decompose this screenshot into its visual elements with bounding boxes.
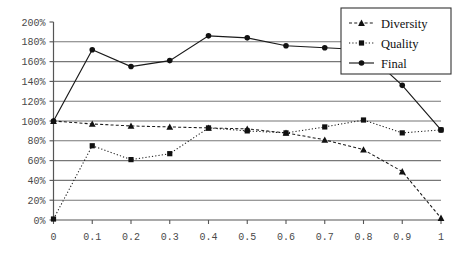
x-tick-label-1: 1 [438,232,444,243]
x-tick-label-0.8: 0.8 [354,232,372,243]
legend-marker-final [359,60,365,66]
y-tick-label-140%: 140% [21,77,45,88]
x-tick-label-0.7: 0.7 [316,232,334,243]
datapoint-final-0.1 [89,47,95,53]
datapoint-diversity-0.9 [399,168,406,174]
datapoint-quality-0.7 [322,124,327,129]
datapoint-final-0.6 [283,43,289,49]
legend-label-final: Final [381,57,407,71]
datapoint-quality-0.8 [361,117,366,122]
y-tick-label-160%: 160% [21,57,45,68]
y-tick-label-60%: 60% [27,156,45,167]
y-tick-label-200%: 200% [21,18,45,29]
datapoint-quality-0.5 [245,128,250,133]
y-tick-label-120%: 120% [21,97,45,108]
y-tick-label-80%: 80% [27,136,45,147]
x-tick-label-0: 0 [50,232,56,243]
y-tick-label-180%: 180% [21,37,45,48]
x-tick-label-0.9: 0.9 [393,232,411,243]
y-tick-label-40%: 40% [27,176,45,187]
chart-container: 0%20%40%60%80%100%120%140%160%180%200% 0… [0,0,455,258]
y-axis-tick-labels: 0%20%40%60%80%100%120%140%160%180%200% [21,18,45,227]
datapoint-quality-0.9 [400,130,405,135]
legend-label-quality: Quality [381,37,419,51]
series-line-quality [54,120,442,219]
datapoint-quality-0.6 [283,130,288,135]
datapoint-quality-0 [51,216,56,221]
datapoint-final-0.5 [244,35,250,41]
datapoint-final-0.4 [206,33,212,39]
series-line-diversity [54,121,442,218]
x-tick-label-0.5: 0.5 [238,232,256,243]
datapoint-final-0 [51,118,57,124]
datapoint-diversity-1 [438,215,445,221]
legend-label-diversity: Diversity [381,17,428,31]
datapoint-final-0.7 [322,45,328,51]
datapoint-final-0.3 [167,58,173,64]
legend-marker-quality [359,40,364,45]
y-tick-label-0%: 0% [33,216,45,227]
datapoint-quality-0.2 [128,157,133,162]
series-quality [51,117,444,221]
datapoint-quality-0.1 [90,143,95,148]
datapoint-final-0.2 [128,64,134,70]
x-tick-label-0.3: 0.3 [161,232,179,243]
chart-legend: DiversityQualityFinal [341,8,451,74]
datapoint-quality-0.4 [206,125,211,130]
y-tick-label-100%: 100% [21,117,45,128]
datapoint-diversity-0.8 [360,146,367,152]
datapoint-quality-0.3 [167,151,172,156]
x-tick-label-0.1: 0.1 [83,232,101,243]
datapoint-final-1 [438,127,444,133]
y-tick-label-20%: 20% [27,196,45,207]
x-tick-label-0.4: 0.4 [199,232,217,243]
x-axis-tick-labels: 00.10.20.30.40.50.60.70.80.91 [50,232,444,243]
datapoint-final-0.9 [399,83,405,89]
x-tick-label-0.2: 0.2 [122,232,140,243]
line-chart: 0%20%40%60%80%100%120%140%160%180%200% 0… [0,0,455,258]
datapoint-diversity-0.7 [321,136,328,142]
x-tick-label-0.6: 0.6 [277,232,295,243]
datapoint-diversity-0.3 [166,124,173,130]
